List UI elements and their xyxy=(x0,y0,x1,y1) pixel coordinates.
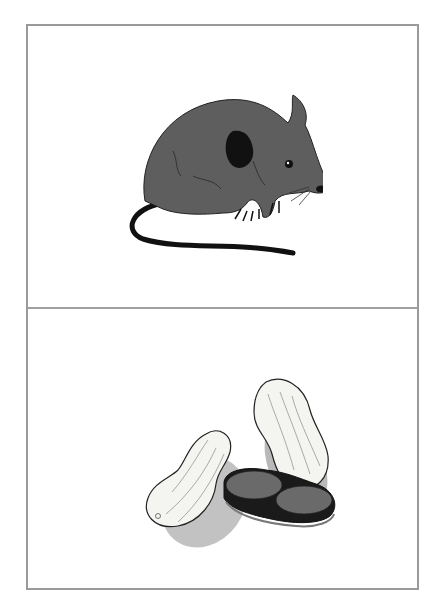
mouse-panel[interactable] xyxy=(28,26,417,307)
peanuts-illustration xyxy=(126,374,346,559)
peanuts-panel[interactable] xyxy=(28,309,417,588)
mouse-illustration xyxy=(123,91,323,266)
picture-card-frame xyxy=(26,24,419,590)
